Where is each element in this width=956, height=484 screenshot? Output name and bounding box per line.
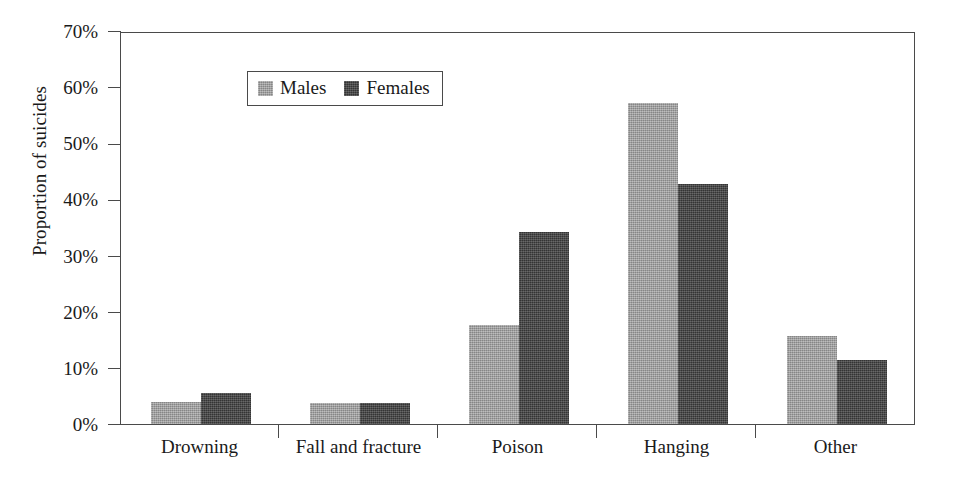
bar-chart-figure: Proportion of suicides 70%60%50%40%30%20… [0,0,956,484]
y-axis-tick-label: 20% [28,303,98,322]
x-axis-tick-label: Other [756,437,915,458]
y-axis-tick-label: 30% [28,247,98,266]
x-axis-tick-label: Drowning [120,437,279,458]
y-axis-tick-label: 70% [28,22,98,41]
y-axis-tick-label: 40% [28,190,98,209]
bar-other-males [787,336,837,424]
bar-hanging-males [628,103,678,424]
bar-drowning-females [201,393,251,424]
bar-poison-females [519,232,569,424]
males-swatch-icon [258,81,273,96]
bar-other-females [837,360,887,424]
legend-label-females: Females [366,77,429,99]
x-axis-tick-label: Hanging [597,437,756,458]
legend-label-males: Males [280,77,326,99]
females-swatch-icon [344,81,359,96]
bar-fall-and-fracture-females [360,403,410,424]
x-axis-tick-label: Fall and fracture [279,437,438,458]
y-axis-tick-label: 0% [28,415,98,434]
legend-entry-females: Females [344,77,429,99]
bar-drowning-males [151,402,201,424]
y-axis-tick-label: 50% [28,134,98,153]
plot-area: Males Females [120,32,915,425]
legend-entry-males: Males [258,77,326,99]
chart-legend: Males Females [247,71,443,106]
y-axis-tick-label: 10% [28,359,98,378]
bar-poison-males [469,325,519,424]
bar-hanging-females [678,184,728,424]
bar-fall-and-fracture-males [310,403,360,424]
x-axis-tick-label: Poison [438,437,597,458]
y-axis-tick-label: 60% [28,78,98,97]
